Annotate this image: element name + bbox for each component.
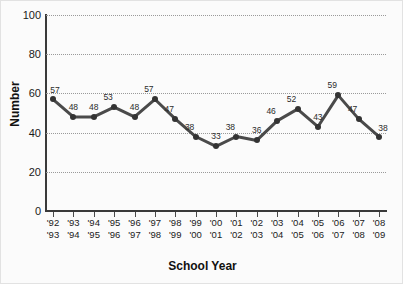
y-axis-tick-label: 100 (11, 9, 41, 21)
data-point-label: 59 (328, 80, 337, 90)
data-point-label: 46 (266, 106, 275, 116)
data-point-marker (132, 114, 138, 120)
data-point-label: 38 (378, 123, 387, 133)
plot-area: 5748485348574738333836465243594738 (46, 15, 386, 211)
data-point-label: 48 (89, 102, 98, 112)
y-axis-tick-label: 80 (11, 48, 41, 60)
data-point-label: 43 (313, 112, 322, 122)
y-axis-title: Number (8, 64, 22, 144)
series-line (46, 15, 386, 211)
data-point-marker (193, 134, 199, 140)
data-point-marker (233, 134, 239, 140)
data-point-label: 48 (130, 102, 139, 112)
data-point-marker (356, 116, 362, 122)
data-point-label: 36 (252, 125, 261, 135)
data-point-marker (295, 106, 301, 112)
data-point-label: 47 (348, 104, 357, 114)
data-point-label: 52 (287, 94, 296, 104)
data-point-label: 38 (226, 122, 235, 132)
y-axis-tick-label: 0 (11, 205, 41, 217)
data-point-label: 53 (103, 92, 112, 102)
x-axis-tick-label: '08 '09 (364, 217, 394, 240)
data-point-label: 48 (69, 102, 78, 112)
data-point-label: 33 (211, 131, 220, 141)
data-point-label: 57 (144, 84, 153, 94)
y-axis-tick-label: 20 (11, 166, 41, 178)
data-point-label: 57 (50, 85, 59, 95)
data-point-marker (274, 118, 280, 124)
data-point-marker (376, 134, 382, 140)
x-axis-title: School Year (1, 259, 403, 273)
data-point-label: 38 (185, 122, 194, 132)
chart-figure: 100806040200 574848534857473833383646524… (0, 0, 403, 284)
data-point-marker (315, 124, 321, 130)
data-point-marker (91, 114, 97, 120)
data-point-label: 47 (165, 104, 174, 114)
